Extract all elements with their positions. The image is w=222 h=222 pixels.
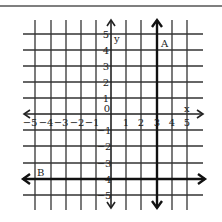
svg-text:5: 5: [103, 29, 109, 40]
svg-text:−1: −1: [97, 125, 112, 136]
x-axis-label: x: [184, 103, 190, 114]
svg-text:−5: −5: [23, 117, 38, 128]
coordinate-plane: −5 −4 −3 −2 −1 1 2 3 4 5 0 5 4 3 2 1 −1 …: [0, 0, 222, 222]
svg-text:4: 4: [103, 45, 109, 56]
svg-text:−2: −2: [70, 117, 85, 128]
svg-text:2: 2: [103, 77, 109, 88]
svg-text:3: 3: [103, 61, 109, 72]
svg-text:2: 2: [138, 117, 144, 128]
svg-text:−4: −4: [97, 174, 112, 185]
svg-text:−3: −3: [54, 117, 69, 128]
svg-text:1: 1: [123, 117, 129, 128]
tick-labels: −5 −4 −3 −2 −1 1 2 3 4 5 0 5 4 3 2 1 −1 …: [23, 29, 191, 201]
svg-text:−5: −5: [97, 190, 112, 201]
svg-text:5: 5: [184, 117, 190, 128]
svg-text:0: 0: [104, 103, 110, 114]
svg-text:−2: −2: [97, 141, 112, 152]
svg-text:4: 4: [169, 117, 175, 128]
svg-text:−4: −4: [39, 117, 54, 128]
line-b-label: B: [37, 167, 44, 178]
svg-text:3: 3: [154, 117, 160, 128]
svg-text:−3: −3: [97, 158, 112, 169]
line-b: [23, 174, 205, 184]
grid: [23, 20, 203, 210]
y-axis-label: y: [113, 33, 120, 44]
svg-text:1: 1: [103, 93, 109, 104]
line-a-label: A: [160, 38, 169, 49]
